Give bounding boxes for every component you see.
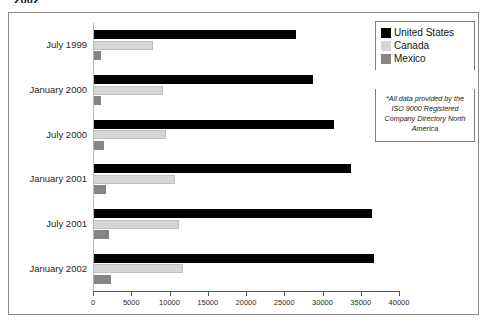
bar-ca [93,220,179,229]
bar-us [93,254,374,263]
axis-tick-label: 10000 [159,298,180,307]
legend-swatch-united-states [381,28,391,38]
axis-tick-label: 30000 [312,298,333,307]
axis-tick [246,291,247,296]
legend-item-canada: Canada [381,39,469,52]
axis-tick-label: 0 [91,298,95,307]
axis-tick [323,291,324,296]
chart-frame: July 1999January 2000July 2000January 20… [8,12,479,315]
bar-mx [93,141,104,150]
category-label: July 2001 [46,218,87,229]
bar-us [93,164,351,173]
bar-mx [93,275,111,284]
bar-us [93,120,334,129]
axis-tick [361,291,362,296]
bar-us [93,30,296,39]
axis-tick [93,291,94,296]
legend-swatch-canada [381,41,391,51]
axis-tick-label: 25000 [274,298,295,307]
bar-group [93,209,399,239]
axis-tick [170,291,171,296]
bar-ca [93,41,153,50]
legend: United States Canada Mexico [375,21,475,70]
bar-group [93,164,399,194]
footnote-text: *All data provided by the ISO 9000 Regis… [382,94,468,134]
axis-tick-label: 35000 [350,298,371,307]
bar-mx [93,230,109,239]
bar-mx [93,51,101,60]
bar-group [93,254,399,284]
bar-group [93,120,399,150]
axis-tick-label: 40000 [389,298,410,307]
axis-tick [208,291,209,296]
value-axis-baseline [93,23,94,291]
axis-tick-label: 20000 [236,298,257,307]
bar-mx [93,96,101,105]
category-label: July 1999 [46,39,87,50]
bar-group [93,30,399,60]
category-label: January 2002 [29,263,87,274]
bar-group [93,75,399,105]
bar-mx [93,185,106,194]
legend-label-united-states: United States [394,28,454,38]
plot-area [93,23,399,291]
legend-swatch-mexico [381,54,391,64]
category-axis: July 1999January 2000July 2000January 20… [9,23,87,291]
clipped-page-header: 2002 [14,0,40,3]
bar-us [93,209,372,218]
legend-label-mexico: Mexico [394,54,426,64]
bar-ca [93,175,175,184]
category-label: July 2000 [46,129,87,140]
bar-ca [93,264,183,273]
footnote-box: *All data provided by the ISO 9000 Regis… [375,89,475,142]
legend-label-canada: Canada [394,41,429,51]
legend-item-mexico: Mexico [381,52,469,65]
category-label: January 2000 [29,84,87,95]
bar-ca [93,86,163,95]
axis-tick-label: 15000 [197,298,218,307]
category-label: January 2001 [29,173,87,184]
axis-tick [131,291,132,296]
bar-us [93,75,313,84]
legend-item-united-states: United States [381,26,469,39]
axis-tick [399,291,400,296]
axis-tick-label: 5000 [123,298,140,307]
axis-tick [284,291,285,296]
bar-ca [93,130,166,139]
